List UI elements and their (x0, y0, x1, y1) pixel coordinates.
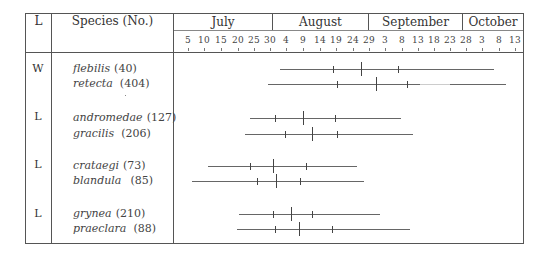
species-count: (73) (123, 159, 146, 172)
quartile-mark (285, 131, 286, 138)
axis-tick (499, 48, 500, 51)
month-october: October (463, 14, 523, 30)
quartile-mark (335, 115, 336, 122)
range-line (208, 166, 357, 167)
axis-tick (303, 48, 304, 51)
species-grynea: grynea(210) (73, 207, 145, 220)
axis-tick (385, 48, 386, 51)
month-august: August (273, 14, 368, 30)
axis-tick (466, 48, 467, 51)
range-line (239, 214, 380, 215)
axis-tick (286, 48, 287, 51)
axis-tick (238, 48, 239, 51)
species-retecta: retecta(404) (73, 77, 149, 90)
col-divider-group (51, 13, 52, 244)
axis-tick (402, 48, 403, 51)
quartile-mark (398, 66, 399, 73)
median-mark (273, 159, 274, 173)
range-line (268, 84, 420, 85)
group-letter-w: W (25, 62, 51, 75)
species-andromedae: andromedae(127) (73, 111, 176, 124)
axis-tick (270, 48, 271, 51)
axis-tick (450, 48, 451, 51)
median-mark (361, 62, 362, 76)
table-bottom-border (25, 243, 524, 244)
quartile-mark (306, 163, 307, 170)
species-name: crataegi (73, 159, 119, 172)
header-group-col: L (26, 14, 51, 28)
month-divider (173, 30, 524, 31)
axis-tick (482, 48, 483, 51)
axis-tick (188, 48, 189, 51)
axis-tick (336, 48, 337, 51)
species-praeclara: praeclara(88) (73, 222, 156, 235)
species-name: praeclara (73, 222, 126, 235)
range-line (237, 229, 410, 230)
axis-tick (418, 48, 419, 51)
header-species-col: Species (No.) (52, 14, 173, 28)
axis-tick (204, 48, 205, 51)
species-name: gracilis (73, 127, 114, 140)
col-divider-species (173, 13, 174, 244)
range-line (245, 134, 413, 135)
species-count: (40) (114, 62, 137, 75)
median-mark (291, 207, 292, 221)
species-count: (404) (120, 77, 150, 90)
quartile-mark (275, 115, 276, 122)
axis-tick (221, 48, 222, 51)
species-count: (206) (121, 127, 151, 140)
median-mark (276, 174, 277, 188)
quartile-mark (273, 211, 274, 218)
stray-dot (125, 95, 126, 96)
axis-tick (515, 48, 516, 51)
species-count: (85) (130, 174, 153, 187)
species-name: retecta (73, 77, 113, 90)
month-september: September (369, 14, 462, 30)
species-name: flebilis (73, 62, 110, 75)
species-blandula: blandula(85) (73, 174, 153, 187)
species-name: blandula (73, 174, 121, 187)
species-count: (88) (133, 222, 156, 235)
month-july: July (174, 14, 272, 30)
axis-tick (254, 48, 255, 51)
quartile-mark (275, 226, 276, 233)
species-count: (127) (147, 111, 177, 124)
range-line (192, 181, 364, 182)
axis-tick (353, 48, 354, 51)
species-gracilis: gracilis(206) (73, 127, 151, 140)
species-flebilis: flebilis(40) (73, 62, 137, 75)
table-right-border (523, 13, 524, 244)
species-name: grynea (73, 207, 112, 220)
quartile-mark (407, 81, 408, 88)
axis-tick (369, 48, 370, 51)
quartile-mark (312, 211, 313, 218)
median-mark (376, 77, 377, 91)
median-mark (312, 127, 313, 141)
group-letter-l: L (25, 110, 51, 123)
quartile-mark (337, 131, 338, 138)
species-crataegi: crataegi(73) (73, 159, 146, 172)
range-line (280, 69, 494, 70)
header-divider (25, 52, 524, 53)
species-name: andromedae (73, 111, 143, 124)
quartile-mark (337, 81, 338, 88)
axis-tick (320, 48, 321, 51)
quartile-mark (257, 178, 258, 185)
median-mark (303, 111, 304, 125)
species-count: (210) (116, 207, 146, 220)
axis-tick (434, 48, 435, 51)
median-mark (299, 222, 300, 236)
quartile-mark (332, 226, 333, 233)
range-line (450, 84, 506, 85)
group-letter-l: L (25, 207, 51, 220)
group-letter-l: L (25, 158, 51, 171)
quartile-mark (333, 66, 334, 73)
quartile-mark (250, 163, 251, 170)
tick-label: 13 (505, 35, 525, 45)
range-line (250, 118, 401, 119)
quartile-mark (300, 178, 301, 185)
range-line-faint (420, 84, 450, 85)
